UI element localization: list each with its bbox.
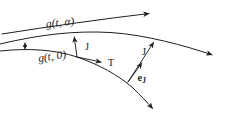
label-J-right: J [142,46,146,57]
geodesic-variation-figure: g(t, α) g(t, 0) J T J eJ [0,0,226,122]
label-g-t-alpha: g(t, α) [45,15,75,31]
jacobi-vector-left [74,37,77,57]
label-J-left: J [85,41,89,52]
geodesic-diagram-canvas: g(t, α) g(t, 0) J T J eJ [0,0,226,122]
label-T: T [108,57,115,68]
label-g-t-zero: g(t, 0) [37,48,67,65]
curve-neighboring-geodesic [0,32,212,55]
curve-g-t-alpha [2,14,149,35]
label-e-J: eJ [138,72,147,85]
